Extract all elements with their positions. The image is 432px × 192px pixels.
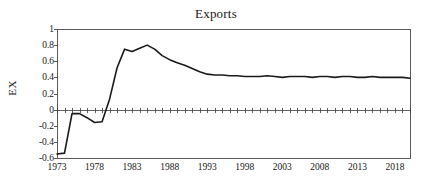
data-series-line xyxy=(57,45,410,154)
chart-figure: Exports EX 10.80.60.40.20-0.2-0.4-0.6 19… xyxy=(0,0,432,192)
y-axis-tick-marks xyxy=(54,30,57,159)
plot-area xyxy=(0,0,432,192)
